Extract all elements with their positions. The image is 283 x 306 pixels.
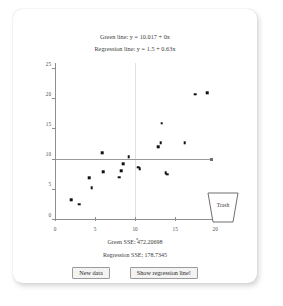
regression-line-equation: Regression line: y = 1.5 + 0.63x	[13, 45, 257, 52]
data-point[interactable]	[159, 141, 162, 144]
y-tick	[52, 68, 56, 69]
data-point[interactable]	[183, 141, 186, 144]
green-line-equation: Green line: y = 10.017 + 0x	[13, 33, 257, 40]
y-axis	[55, 63, 56, 220]
y-tick-label: 10	[42, 151, 51, 157]
y-tick	[52, 98, 56, 99]
y-tick-label: 25	[42, 61, 51, 67]
green-horizontal-line[interactable]	[55, 159, 211, 160]
green-sse-text: Green SSE: 472.20698	[13, 239, 257, 245]
new-data-button[interactable]: New data	[72, 267, 110, 279]
x-tick-label: 20	[213, 226, 218, 232]
data-point[interactable]	[78, 203, 81, 206]
data-point[interactable]	[122, 163, 125, 166]
y-tick	[52, 159, 56, 160]
data-point[interactable]	[157, 146, 160, 149]
x-tick-label: 5	[94, 226, 97, 232]
button-row: New data Show regression line!	[13, 267, 257, 279]
green-line-endpoint-handle[interactable]	[210, 158, 213, 161]
y-tick-label: 15	[42, 121, 51, 127]
data-point[interactable]	[194, 93, 197, 96]
data-point[interactable]	[206, 91, 209, 94]
data-point[interactable]	[101, 152, 104, 155]
x-tick-label: 0	[54, 226, 57, 232]
x-axis	[55, 219, 220, 220]
y-tick-label: 5	[42, 181, 51, 187]
regression-sse-text: Regression SSE: 178.7345	[13, 252, 257, 258]
y-tick	[52, 219, 56, 220]
trash-can[interactable]: Trash	[204, 192, 242, 223]
app-card: Green line: y = 10.017 + 0x Regression l…	[13, 9, 257, 283]
data-point[interactable]	[102, 170, 105, 173]
data-point[interactable]	[91, 187, 94, 190]
data-point[interactable]	[88, 176, 91, 179]
y-tick-label: 20	[42, 91, 51, 97]
y-tick	[52, 189, 56, 190]
show-regression-line-button[interactable]: Show regression line!	[130, 267, 198, 279]
x-tick	[135, 217, 136, 221]
x-tick-label: 10	[133, 226, 138, 232]
data-point[interactable]	[118, 176, 121, 179]
trash-label: Trash	[204, 202, 242, 208]
data-point[interactable]	[160, 122, 163, 125]
data-point[interactable]	[166, 173, 169, 176]
data-point[interactable]	[120, 169, 123, 172]
scatter-plot[interactable]: x 051015200510152025	[55, 63, 220, 220]
vertical-gridline	[135, 63, 136, 220]
data-point[interactable]	[127, 155, 130, 158]
x-tick	[175, 217, 176, 221]
x-tick-label: 15	[173, 226, 178, 232]
data-point[interactable]	[70, 199, 73, 202]
data-point[interactable]	[139, 167, 142, 170]
y-tick-label: 0	[42, 212, 51, 218]
x-tick	[95, 217, 96, 221]
y-tick	[52, 128, 56, 129]
